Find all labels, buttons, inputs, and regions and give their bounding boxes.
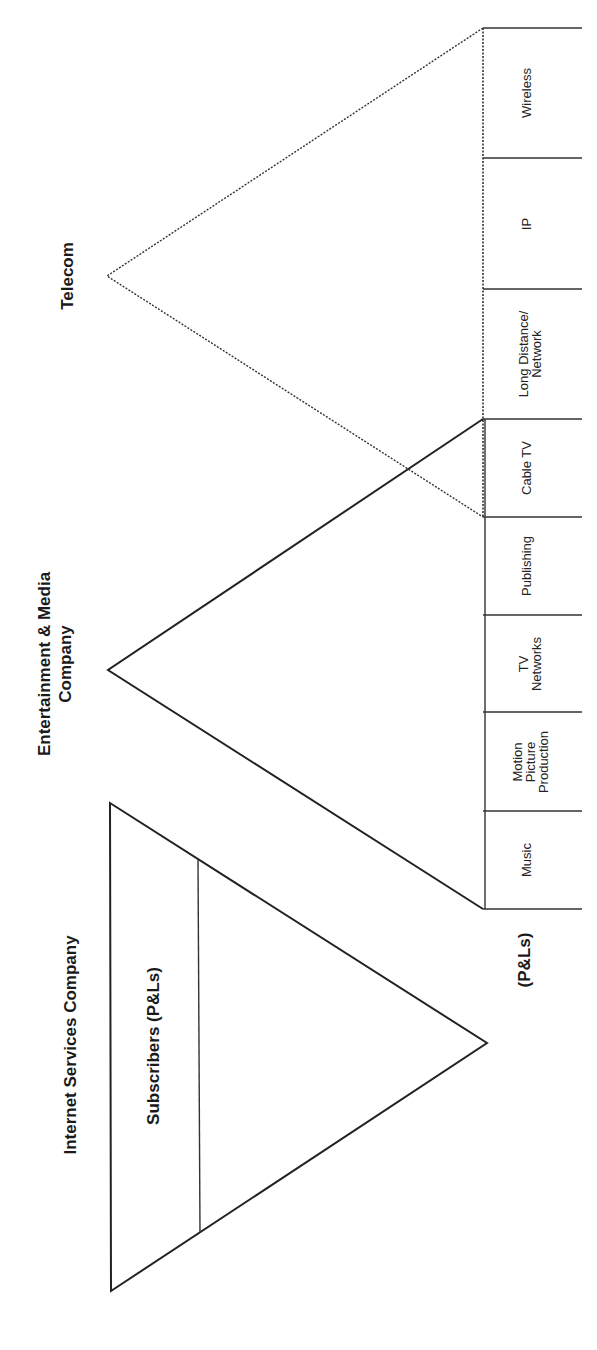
media-triangle bbox=[108, 419, 483, 909]
telecom-title: Telecom bbox=[58, 242, 77, 310]
segment-label-ip: IP bbox=[519, 218, 534, 230]
segment-label-music: Music bbox=[519, 843, 534, 877]
segment-label-networks: Networks bbox=[529, 636, 544, 691]
media-title: Entertainment & Media Company bbox=[35, 571, 75, 756]
media-title-line-1: Entertainment & Media bbox=[35, 571, 54, 756]
segment-label-cable-tv: Cable TV bbox=[519, 441, 534, 495]
isp-band-label: Subscribers (P&Ls) bbox=[144, 967, 163, 1125]
telecom-triangle bbox=[107, 28, 483, 517]
isp-title: Internet Services Company bbox=[61, 935, 80, 1155]
pnl-column-label: (P&Ls) bbox=[515, 933, 534, 988]
business-structure-diagram: Telecom Entertainment & Media Company In… bbox=[0, 0, 597, 1350]
segment-label-wireless: Wireless bbox=[519, 68, 534, 118]
segment-label-production: Production bbox=[536, 731, 551, 793]
isp-subscriber-band-line bbox=[198, 860, 200, 1232]
media-title-line-2: Company bbox=[56, 625, 75, 703]
segment-label-network: Network bbox=[529, 330, 544, 378]
segment-label-publishing: Publishing bbox=[519, 536, 534, 596]
